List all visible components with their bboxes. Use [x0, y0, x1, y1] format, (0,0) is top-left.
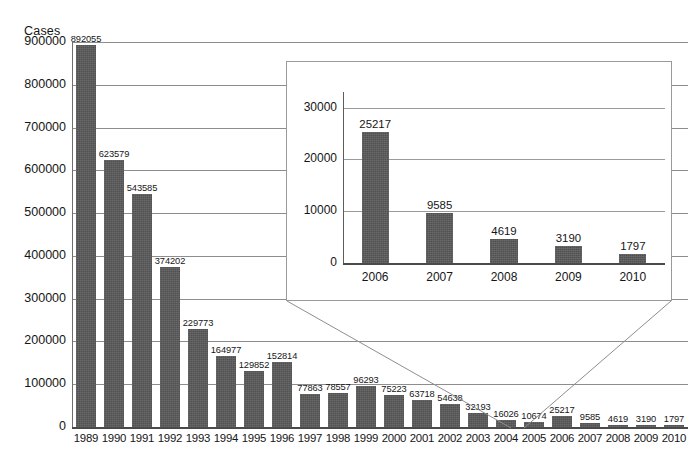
bar [300, 394, 321, 427]
x-axis-tick-label: 2010 [658, 432, 690, 444]
y-axis-tick-label: 800000 [0, 77, 66, 91]
inset-bar [490, 239, 517, 263]
inset-bar [619, 254, 646, 263]
bar-value-label: 1797 [650, 414, 693, 424]
y-axis-tick-label: 200000 [0, 333, 66, 347]
inset-x-axis-tick-label: 2006 [353, 270, 397, 284]
bar-value-label: 229773 [174, 318, 222, 328]
inset-x-axis-line [343, 263, 665, 265]
y-axis-tick-label: 900000 [0, 34, 66, 48]
inset-x-axis-tick-label: 2008 [482, 270, 526, 284]
inset-y-axis-tick-label: 30000 [287, 100, 337, 114]
inset-bar [362, 132, 389, 263]
inset-gridline [343, 211, 665, 212]
bar-value-label: 374202 [146, 256, 194, 266]
y-axis-tick-label: 300000 [0, 291, 66, 305]
bar [272, 362, 293, 427]
bar [384, 395, 405, 427]
y-axis-tick-label: 600000 [0, 162, 66, 176]
bar-value-label: 892055 [62, 34, 110, 44]
main-y-axis-line [72, 42, 73, 428]
bar [132, 194, 153, 427]
inset-bar [555, 246, 582, 263]
bar [412, 400, 433, 427]
bar-value-label: 152814 [258, 351, 306, 361]
inset-bar-value-label: 25217 [349, 118, 401, 130]
y-axis-tick-label: 0 [0, 419, 66, 433]
bar [160, 267, 181, 427]
bar-value-label: 54638 [426, 393, 474, 403]
inset-y-axis-tick-label: 10000 [287, 203, 337, 217]
bar [104, 160, 125, 427]
inset-gridline [343, 159, 665, 160]
inset-gridline [343, 108, 665, 109]
inset-bar-value-label: 3190 [542, 232, 594, 244]
y-axis-tick-label: 500000 [0, 205, 66, 219]
bar [328, 393, 349, 427]
bar-value-label: 164977 [202, 345, 250, 355]
bar-value-label: 129852 [230, 360, 278, 370]
inset-y-axis-line [343, 92, 344, 264]
y-axis-tick-label: 100000 [0, 376, 66, 390]
inset-bar-value-label: 9585 [414, 199, 466, 211]
bar [76, 45, 97, 427]
inset-chart-panel: 3000020000100000 252179585461931901797 2… [286, 61, 672, 301]
bar-value-label: 543585 [118, 183, 166, 193]
inset-y-axis-tick-label: 0 [287, 255, 337, 269]
gridline [72, 42, 688, 43]
bar [188, 329, 209, 427]
inset-bar-value-label: 4619 [478, 225, 530, 237]
y-axis-tick-label: 400000 [0, 248, 66, 262]
chart-canvas: Cases 9000008000007000006000005000004000… [0, 0, 693, 465]
inset-x-axis-tick-label: 2010 [611, 270, 655, 284]
y-axis-tick-label: 700000 [0, 120, 66, 134]
main-x-axis-line [72, 427, 688, 429]
inset-bar-value-label: 1797 [607, 240, 659, 252]
bar-value-label: 623579 [90, 149, 138, 159]
inset-y-axis-tick-label: 20000 [287, 151, 337, 165]
inset-x-axis-tick-label: 2007 [418, 270, 462, 284]
inset-x-axis-tick-label: 2009 [546, 270, 590, 284]
bar [244, 371, 265, 427]
inset-bar [426, 213, 453, 263]
